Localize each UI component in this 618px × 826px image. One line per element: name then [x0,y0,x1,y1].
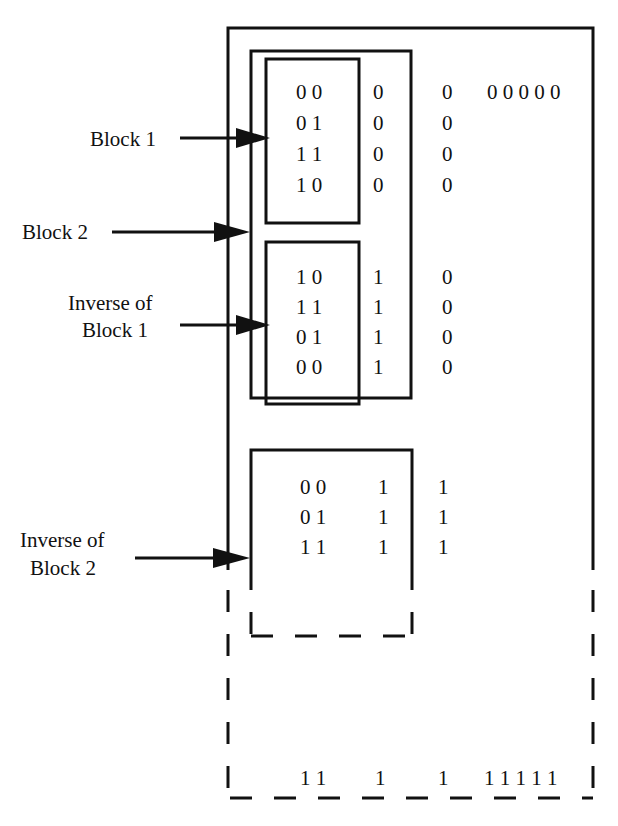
inverse-block1-rows: 1 0 1 0 1 1 1 0 0 1 1 0 0 0 1 0 [296,265,453,379]
bits-pair: 0 1 [300,505,326,529]
bit: 1 [373,325,384,349]
bit: 0 [442,265,453,289]
bit: 1 [438,475,449,499]
bit: 0 [442,80,453,104]
bit: 1 [378,535,389,559]
arrow-inverse-block2-icon [135,548,250,568]
bits-pair: 1 1 [296,295,322,319]
bits-pair: 1 0 [296,265,322,289]
bits-tail: 0 0 0 0 0 [487,80,561,104]
label-inverse-block2-line1: Inverse of [20,528,105,552]
bit: 1 [378,505,389,529]
bits-pair: 0 1 [296,325,322,349]
bits-tail: 1 1 1 1 1 [484,766,558,790]
bit: 0 [373,111,384,135]
label-inverse-block2-line2: Block 2 [30,556,96,580]
bits-pair: 0 0 [296,80,322,104]
bits-pair: 0 0 [300,475,326,499]
gray-code-diagram: 0 0 0 0 0 0 0 0 0 0 1 0 0 1 1 0 0 1 0 0 … [0,0,618,826]
bit: 1 [378,475,389,499]
bits-pair: 0 1 [296,111,322,135]
arrow-inverse-block1-icon [180,315,270,335]
bit: 0 [373,80,384,104]
bit: 1 [438,535,449,559]
bit: 1 [373,265,384,289]
bit: 0 [442,295,453,319]
bit: 1 [373,295,384,319]
bit: 0 [442,325,453,349]
bits-pair: 1 0 [296,173,322,197]
bit: 0 [442,111,453,135]
bit: 1 [373,355,384,379]
label-inverse-block1-line2: Block 1 [82,318,148,342]
bit: 0 [442,173,453,197]
bits-pair: 1 1 [300,535,326,559]
bit: 0 [373,173,384,197]
bit: 1 [438,505,449,529]
bit: 0 [442,355,453,379]
label-inverse-block1-line1: Inverse of [68,291,153,315]
bits-pair: 1 1 [296,142,322,166]
bits-pair: 1 1 [300,766,326,790]
block1-rows: 0 0 0 0 0 0 0 0 0 0 1 0 0 1 1 0 0 1 0 0 … [296,80,561,197]
bits-pair: 0 0 [296,355,322,379]
bit: 0 [373,142,384,166]
label-block1: Block 1 [90,127,156,151]
last-row: 1 1 1 1 1 1 1 1 1 [300,766,558,790]
bit: 1 [438,766,449,790]
bit: 0 [442,142,453,166]
inverse-block2-rows: 0 0 1 1 0 1 1 1 1 1 1 1 [300,475,449,559]
arrow-block1-icon [180,128,270,148]
label-block2: Block 2 [22,220,88,244]
bit: 1 [375,766,386,790]
